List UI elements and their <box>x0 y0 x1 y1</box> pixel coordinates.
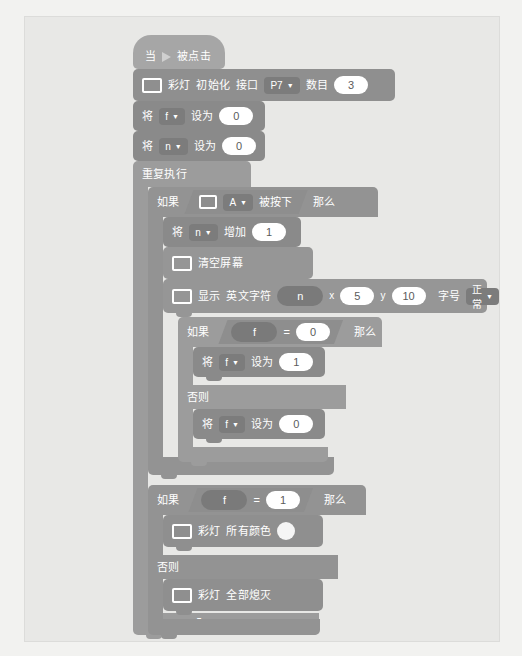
chevron-down-icon: ▼ <box>486 293 493 300</box>
chevron-down-icon: ▼ <box>240 199 247 206</box>
set-f1-value-input[interactable]: 1 <box>279 353 313 371</box>
microbit-screen-icon <box>199 195 217 209</box>
if-f1-then-label: 那么 <box>324 495 346 506</box>
set-n-prefix-label: 将 <box>142 141 153 152</box>
led-init-label-4: 数目 <box>306 80 328 91</box>
led-off-label-2: 全部熄灭 <box>226 590 271 601</box>
button-pressed-label: 被按下 <box>259 197 293 208</box>
if-f1-footer <box>148 619 320 635</box>
chevron-down-icon: ▼ <box>205 229 212 236</box>
set-variable-f-block[interactable]: 将 f ▼ 设为 0 <box>133 101 265 131</box>
button-select-dropdown[interactable]: A ▼ <box>223 194 253 211</box>
if-f0-if-label: 如果 <box>187 327 209 338</box>
clear-screen-label: 清空屏幕 <box>198 258 243 269</box>
hat-suffix-label: 被点击 <box>177 51 211 62</box>
chevron-down-icon: ▼ <box>172 113 179 120</box>
led-all-color-block[interactable]: 彩灯 所有颜色 <box>163 515 323 547</box>
if-button-arm <box>148 217 163 457</box>
show-char-size-value: 正常 <box>472 281 482 311</box>
forever-loop-header[interactable]: 重复执行 <box>133 161 251 187</box>
led-init-block[interactable]: 彩灯 初始化 接口 P7 ▼ 数目 3 <box>133 69 395 101</box>
change-n-variable-value: n <box>195 227 201 238</box>
set-f-variable-dropdown[interactable]: f ▼ <box>159 108 185 125</box>
led-init-label-2: 初始化 <box>196 80 230 91</box>
if-f0-condition[interactable]: f = 0 <box>218 320 343 344</box>
show-char-size-dropdown[interactable]: 正常 ▼ <box>466 288 499 305</box>
if-f1-right-input[interactable]: 1 <box>266 491 300 509</box>
if-f1-arm-then <box>148 515 163 555</box>
led-port-dropdown[interactable]: P7 ▼ <box>264 77 299 94</box>
set-f1-variable-value: f <box>225 357 228 368</box>
if-f-equals-0-block[interactable]: 如果 f = 0 那么 否则 <box>178 317 278 462</box>
led-color-label-2: 所有颜色 <box>226 526 271 537</box>
set-n-verb-label: 设为 <box>194 141 216 152</box>
if-f0-right-input[interactable]: 0 <box>296 323 330 341</box>
microbit-screen-icon <box>142 78 162 93</box>
set-f0-variable-value: f <box>225 419 228 430</box>
change-n-value-input[interactable]: 1 <box>252 223 286 241</box>
microbit-screen-icon <box>172 256 192 271</box>
if-button-then-label: 那么 <box>313 197 335 208</box>
set-f1-variable-dropdown[interactable]: f ▼ <box>219 354 245 371</box>
forever-loop-label: 重复执行 <box>142 169 187 180</box>
set-n-variable-dropdown[interactable]: n ▼ <box>159 138 188 155</box>
hat-prefix-label: 当 <box>145 51 156 62</box>
show-char-label-2: 英文字符 <box>226 291 271 302</box>
chevron-down-icon: ▼ <box>287 82 294 89</box>
set-f-verb-label: 设为 <box>191 111 213 122</box>
block-code-workspace[interactable]: 当 被点击 彩灯 初始化 接口 P7 ▼ 数目 3 将 f ▼ 设为 0 将 n… <box>24 16 500 642</box>
chevron-down-icon: ▼ <box>232 421 239 428</box>
set-f0-variable-dropdown[interactable]: f ▼ <box>219 416 245 433</box>
event-hat-block[interactable]: 当 被点击 <box>133 35 225 69</box>
button-pressed-condition[interactable]: A ▼ 被按下 <box>184 190 307 214</box>
if-button-header[interactable]: 如果 A ▼ 被按下 那么 <box>148 187 378 217</box>
led-color-label-1: 彩灯 <box>198 526 220 537</box>
led-init-label-3: 接口 <box>236 80 258 91</box>
set-n-value-input[interactable]: 0 <box>222 137 256 155</box>
set-f1-prefix-label: 将 <box>202 357 213 368</box>
if-f0-header[interactable]: 如果 f = 0 那么 <box>178 317 382 347</box>
set-f-value-input[interactable]: 0 <box>219 107 253 125</box>
show-char-y-label: y <box>380 291 385 301</box>
microbit-screen-icon <box>172 524 192 539</box>
show-char-y-input[interactable]: 10 <box>392 287 426 305</box>
if-f1-arm-else <box>148 579 163 619</box>
if-f1-if-label: 如果 <box>157 495 179 506</box>
show-char-x-label: x <box>329 291 334 301</box>
led-color-picker[interactable] <box>277 522 295 540</box>
led-all-off-block[interactable]: 彩灯 全部熄灭 <box>163 579 323 611</box>
set-f-prefix-label: 将 <box>142 111 153 122</box>
change-n-variable-dropdown[interactable]: n ▼ <box>189 224 218 241</box>
microbit-screen-icon <box>172 588 192 603</box>
green-flag-icon <box>162 52 171 62</box>
show-character-block[interactable]: 显示 英文字符 n x 5 y 10 字号 正常 ▼ <box>163 279 487 313</box>
if-f1-else-label: 否则 <box>157 562 179 573</box>
if-f0-else-divider: 否则 <box>178 385 346 409</box>
led-port-value: P7 <box>270 80 282 91</box>
show-char-variable-reporter[interactable]: n <box>277 286 323 306</box>
set-f0-verb-label: 设为 <box>251 419 273 430</box>
if-f1-else-divider: 否则 <box>148 555 338 579</box>
if-f1-left-reporter[interactable]: f <box>201 490 247 510</box>
show-char-size-label: 字号 <box>438 291 460 302</box>
if-f0-arm-then <box>178 347 193 385</box>
led-count-input[interactable]: 3 <box>334 76 368 94</box>
chevron-down-icon: ▼ <box>232 359 239 366</box>
forever-loop-arm <box>133 187 148 613</box>
if-button-if-label: 如果 <box>157 197 179 208</box>
if-f0-footer <box>178 447 328 462</box>
change-variable-n-block[interactable]: 将 n ▼ 增加 1 <box>163 217 301 247</box>
change-n-verb-label: 增加 <box>224 227 246 238</box>
clear-screen-block[interactable]: 清空屏幕 <box>163 247 313 279</box>
if-f1-condition[interactable]: f = 1 <box>188 488 313 512</box>
set-f0-value-input[interactable]: 0 <box>279 415 313 433</box>
set-f0-prefix-label: 将 <box>202 419 213 430</box>
set-f-0-inner-block[interactable]: 将 f ▼ 设为 0 <box>193 409 325 439</box>
if-f1-header[interactable]: 如果 f = 1 那么 <box>148 485 366 515</box>
set-f-variable-value: f <box>165 111 168 122</box>
if-f0-left-reporter[interactable]: f <box>231 322 277 342</box>
if-f0-then-label: 那么 <box>354 327 376 338</box>
show-char-x-input[interactable]: 5 <box>340 287 374 305</box>
set-f-1-inner-block[interactable]: 将 f ▼ 设为 1 <box>193 347 325 377</box>
set-variable-n-block[interactable]: 将 n ▼ 设为 0 <box>133 131 265 161</box>
